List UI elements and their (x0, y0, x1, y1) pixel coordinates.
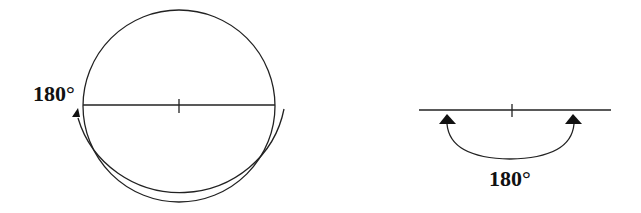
rotation-arc (78, 109, 284, 193)
arrowhead-left-icon (439, 114, 456, 124)
right-panel: 180° (419, 104, 611, 191)
arrowhead-right-icon (565, 114, 582, 124)
angle-arc (447, 124, 574, 159)
arrowhead-icon (72, 108, 80, 117)
left-panel: 180° (33, 10, 284, 202)
angle-label-right: 180° (489, 166, 531, 191)
diagram-canvas: 180° 180° (0, 0, 641, 213)
angle-label-left: 180° (33, 81, 75, 106)
